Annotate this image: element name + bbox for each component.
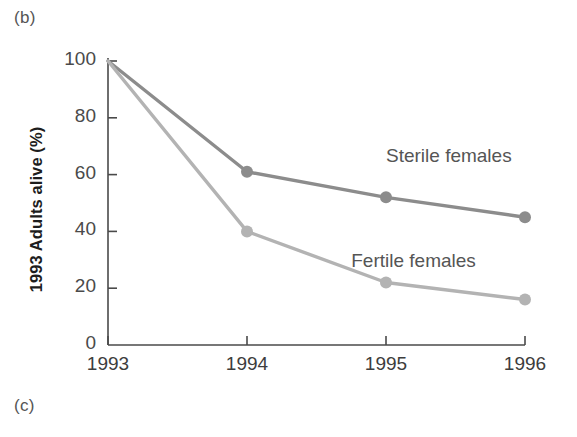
data-point-marker: [241, 225, 253, 237]
data-point-marker: [519, 211, 531, 223]
chart-axes: [108, 58, 525, 345]
data-point-marker: [380, 277, 392, 289]
figure-panel-b: (b) (c) 1993 Adults alive (%) 0204060801…: [0, 0, 577, 437]
data-point-marker: [519, 294, 531, 306]
chart-series: [108, 61, 531, 306]
line-chart-plot: [0, 0, 577, 437]
data-point-marker: [241, 166, 253, 178]
series-line-1: [108, 61, 525, 300]
data-point-marker: [380, 191, 392, 203]
